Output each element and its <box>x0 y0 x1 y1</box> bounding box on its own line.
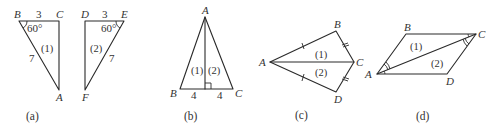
vertex-d-label: D <box>80 8 89 20</box>
vertex-a-label: A <box>258 56 266 68</box>
left-base-length: 4 <box>191 89 197 101</box>
triangle-bca: B C A 3 60° 7 (1) <box>14 8 64 103</box>
figure-a: B C A 3 60° 7 (1) D E F 3 60° 7 (2) (a) <box>14 8 128 123</box>
vertex-b-label: B <box>170 87 177 99</box>
angle-b-measure: 60° <box>27 22 42 34</box>
angle-arc-a-2 <box>384 64 388 70</box>
angle-arc-c-3 <box>463 39 467 46</box>
figure-c: A B C D (1) (2) (c) <box>258 18 364 122</box>
triangle-def: D E F 3 60° 7 (2) <box>80 8 128 103</box>
caption-c: (c) <box>295 109 308 122</box>
region-1-label: (1) <box>315 49 328 61</box>
caption-d: (d) <box>416 110 430 123</box>
vertex-b-label: B <box>14 8 21 20</box>
vertex-a-label: A <box>364 68 372 80</box>
vertex-d-label: D <box>333 93 342 105</box>
angle-arc-e <box>116 21 120 28</box>
vertex-d-label: D <box>445 75 454 87</box>
right-base-length: 4 <box>217 89 223 101</box>
region-2-label: (2) <box>315 67 328 79</box>
vertex-a-label: A <box>55 91 63 103</box>
angle-arc-a-3 <box>386 62 390 69</box>
angle-e-measure: 60° <box>101 22 116 34</box>
side-ab-length: 7 <box>29 52 35 64</box>
vertex-b-label: B <box>334 18 341 30</box>
vertex-f-label: F <box>81 91 89 103</box>
region-1-label: (1) <box>191 65 204 77</box>
vertex-c-label: C <box>478 28 486 40</box>
vertex-a-label: A <box>201 4 209 16</box>
vertex-c-label: C <box>235 87 243 99</box>
region-2-label: (2) <box>431 58 444 70</box>
region-1-label: (1) <box>41 43 54 55</box>
region-2-label: (2) <box>208 65 221 77</box>
right-angle-marker <box>205 83 211 89</box>
caption-a: (a) <box>26 110 39 123</box>
triangle-abc-outline <box>180 17 233 89</box>
figure-b: A B C 4 4 (1) (2) (b) <box>170 4 243 123</box>
side-bc-length: 3 <box>36 8 42 20</box>
vertex-c-label: C <box>56 8 64 20</box>
geometry-figures: B C A 3 60° 7 (1) D E F 3 60° 7 (2) (a) … <box>0 0 497 130</box>
vertex-e-label: E <box>120 8 128 20</box>
side-ef-length: 7 <box>109 52 115 64</box>
side-de-length: 3 <box>102 8 108 20</box>
vertex-c-label: C <box>356 56 364 68</box>
caption-b: (b) <box>184 110 198 123</box>
region-1-label: (1) <box>410 41 423 53</box>
angle-arc-c-2 <box>465 38 469 44</box>
region-2-label: (2) <box>90 43 103 55</box>
vertex-b-label: B <box>404 21 411 33</box>
figure-d: A B C D (1) (2) (d) <box>364 21 486 123</box>
